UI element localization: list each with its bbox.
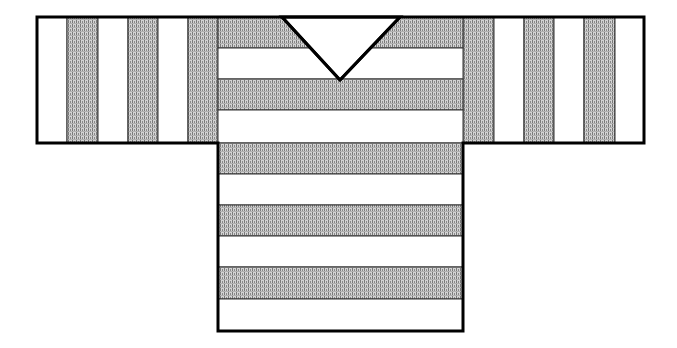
left-sleeve <box>37 17 218 143</box>
sleeve-stripe-shaded <box>188 17 218 143</box>
body-stripe-shaded <box>218 205 463 236</box>
sleeve-stripe-shaded <box>584 17 615 143</box>
sleeve-stripe-shaded <box>67 17 98 143</box>
right-sleeve <box>463 17 644 143</box>
sleeve-stripe-white <box>494 17 524 143</box>
body-stripe-white <box>218 174 463 205</box>
sleeve-stripe-white <box>615 17 644 143</box>
sleeve-stripe-shaded <box>128 17 158 143</box>
body-stripe-white <box>218 299 463 331</box>
sleeve-stripe-shaded <box>463 17 494 143</box>
body-stripe-shaded <box>218 143 463 174</box>
body-stripe-white <box>218 110 463 143</box>
body-stripe-shaded <box>218 267 463 299</box>
sleeve-stripe-white <box>158 17 188 143</box>
sleeve-stripe-shaded <box>524 17 554 143</box>
sleeve-stripe-white <box>98 17 128 143</box>
body-stripe-shaded <box>218 79 463 110</box>
body-stripe-white <box>218 236 463 267</box>
sleeve-stripe-white <box>37 17 67 143</box>
sleeve-stripe-white <box>554 17 584 143</box>
sweater-diagram <box>0 0 677 348</box>
